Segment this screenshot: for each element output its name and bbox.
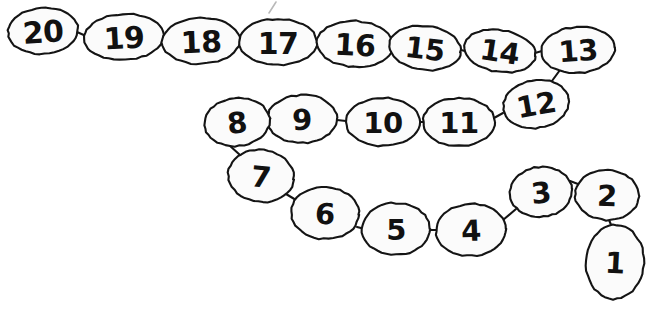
- bubble-number-15: 15: [403, 30, 446, 69]
- number-bubble-4[interactable]: 4: [435, 202, 507, 257]
- bubble-number-11: 11: [439, 106, 478, 140]
- bubble-number-8: 8: [226, 105, 249, 141]
- number-bubbles-layer: 2019181716151413121110987654321: [6, 5, 646, 301]
- number-bubble-7[interactable]: 7: [225, 146, 297, 205]
- number-bubble-19[interactable]: 19: [83, 12, 165, 61]
- bubble-number-20: 20: [22, 13, 65, 51]
- chain-link-4-to-3: [503, 209, 516, 220]
- bubble-number-13: 13: [557, 33, 599, 70]
- bubble-number-2: 2: [597, 179, 618, 214]
- number-bubble-10[interactable]: 10: [346, 98, 420, 147]
- number-bubble-16[interactable]: 16: [315, 18, 394, 69]
- stray-marks-layer: [269, 2, 276, 13]
- number-bubble-9[interactable]: 9: [266, 93, 339, 144]
- bubble-number-4: 4: [461, 214, 482, 249]
- bubble-number-19: 19: [103, 19, 146, 56]
- number-bubble-3[interactable]: 3: [507, 163, 574, 220]
- worksheet-canvas: 2019181716151413121110987654321: [0, 0, 654, 310]
- bubble-number-6: 6: [314, 197, 335, 232]
- number-chain-diagram: 2019181716151413121110987654321: [0, 0, 654, 310]
- number-bubble-17[interactable]: 17: [239, 19, 317, 65]
- number-bubble-11[interactable]: 11: [423, 98, 495, 146]
- bubble-number-12: 12: [514, 85, 559, 125]
- number-bubble-12[interactable]: 12: [499, 75, 573, 134]
- pencil-tick-above-17: [269, 2, 276, 13]
- number-bubble-20[interactable]: 20: [6, 5, 80, 56]
- bubble-number-10: 10: [363, 106, 402, 140]
- bubble-number-18: 18: [180, 24, 222, 60]
- number-bubble-14[interactable]: 14: [461, 25, 539, 78]
- number-bubble-2[interactable]: 2: [574, 169, 640, 222]
- bubble-number-3: 3: [530, 175, 553, 211]
- number-bubble-13[interactable]: 13: [540, 24, 617, 75]
- bubble-number-1: 1: [604, 246, 625, 281]
- bubble-number-9: 9: [292, 103, 313, 138]
- chain-link-10-to-9: [337, 120, 346, 121]
- chain-link-12-to-11: [494, 113, 503, 118]
- number-bubble-6[interactable]: 6: [290, 185, 361, 241]
- bubble-number-5: 5: [386, 213, 406, 247]
- number-bubble-1[interactable]: 1: [584, 223, 646, 301]
- bubble-number-7: 7: [249, 159, 272, 195]
- bubble-number-17: 17: [258, 26, 299, 61]
- number-bubble-8[interactable]: 8: [202, 95, 273, 150]
- number-bubble-5[interactable]: 5: [362, 203, 431, 255]
- number-bubble-15[interactable]: 15: [387, 22, 464, 74]
- bubble-number-16: 16: [334, 26, 377, 63]
- bubble-number-14: 14: [478, 32, 522, 72]
- number-bubble-18[interactable]: 18: [161, 16, 242, 65]
